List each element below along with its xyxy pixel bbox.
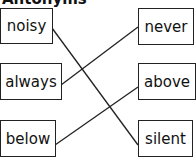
- word-box-noisy: noisy: [0, 8, 53, 44]
- line-noisy-silent: [52, 28, 138, 145]
- word-box-never: never: [138, 8, 194, 45]
- word-box-silent: silent: [138, 120, 193, 157]
- word-box-above: above: [138, 63, 196, 100]
- word-box-always: always: [0, 63, 62, 100]
- word-box-below: below: [0, 120, 56, 157]
- line-below-above: [55, 87, 138, 145]
